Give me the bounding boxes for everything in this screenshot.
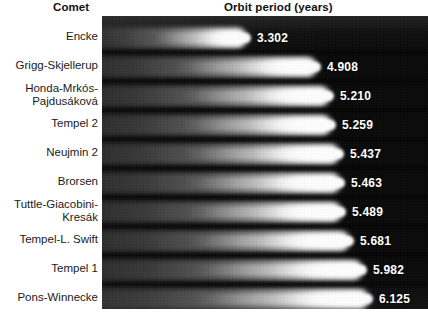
category-column-header: Comet <box>53 1 89 13</box>
row-separator <box>102 137 428 141</box>
comet-streak-core <box>181 91 334 101</box>
row-separator <box>102 79 428 83</box>
comet-streak-core <box>184 149 344 159</box>
row-separator <box>102 282 428 286</box>
value-label: 5.437 <box>350 147 381 161</box>
value-label: 5.982 <box>373 263 404 277</box>
comet-streak-core <box>153 33 251 43</box>
category-label: Tuttle-Giacobini- Kresák <box>0 198 98 223</box>
value-label: 3.302 <box>257 31 288 45</box>
comet-streak-core <box>188 236 354 246</box>
category-label: Tempel-L. Swift <box>0 233 98 246</box>
comet-streak-core <box>185 207 346 217</box>
row-separator <box>102 224 428 228</box>
value-label: 5.463 <box>351 176 382 190</box>
category-label: Tempel 1 <box>0 262 98 275</box>
row-separator <box>102 166 428 170</box>
category-label: Pons-Winnecke <box>0 291 98 304</box>
bar-row <box>102 52 428 81</box>
value-label: 6.125 <box>379 292 410 306</box>
comet-streak-core <box>182 120 336 130</box>
bar-row <box>102 81 428 110</box>
comet-streak-core <box>185 178 345 188</box>
value-column-header: Orbit period (years) <box>224 1 333 13</box>
row-separator <box>102 50 428 54</box>
value-label: 5.681 <box>360 234 391 248</box>
value-label: 5.489 <box>352 205 383 219</box>
comet-orbit-period-chart: Comet Orbit period (years) EnckeGrigg-Sk… <box>0 0 428 314</box>
bar-row <box>102 110 428 139</box>
comet-streak-core <box>194 294 373 304</box>
comet-streak-core <box>192 265 367 275</box>
value-label: 5.259 <box>342 118 373 132</box>
value-label: 5.210 <box>340 89 371 103</box>
category-label: Encke <box>0 30 98 43</box>
category-label: Neujmin 2 <box>0 146 98 159</box>
row-separator <box>102 195 428 199</box>
comet-streak-core <box>176 62 321 72</box>
row-separator <box>102 253 428 257</box>
category-label: Honda-Mrkós- Pajdusáková <box>0 82 98 107</box>
category-label: Tempel 2 <box>0 117 98 130</box>
value-label: 4.908 <box>327 60 358 74</box>
category-label: Brorsen <box>0 175 98 188</box>
category-label: Grigg-Skjellerup <box>0 59 98 72</box>
row-separator <box>102 108 428 112</box>
